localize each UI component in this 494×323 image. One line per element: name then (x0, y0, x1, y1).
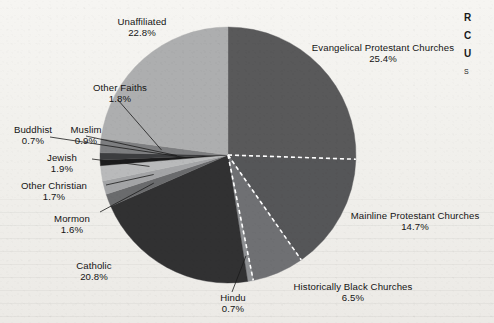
slice-label-muslim: Muslim 0.9% (58, 124, 114, 147)
slice-label-unaffiliated-percent: 22.8% (83, 27, 201, 38)
slice-label-mainline-protestant-churches: Mainline Protestant Churches 14.7% (344, 210, 486, 233)
slice-label-other-faiths: Other Faiths 1.8% (72, 82, 168, 105)
slice-label-historically-black-churches: Historically Black Churches 6.5% (281, 281, 425, 304)
slice-label-unaffiliated-name: Unaffiliated (117, 16, 166, 27)
edge-fragment-line-1: R (464, 12, 494, 23)
edge-fragment-line-4: S (464, 68, 494, 75)
edge-fragment-line-3: U (464, 48, 494, 59)
slice-label-evangelical-protestant-churches-percent: 25.4% (305, 53, 461, 64)
slice-label-evangelical-protestant-churches: Evangelical Protestant Churches 25.4% (305, 42, 461, 65)
slice-label-hindu-percent: 0.7% (206, 303, 260, 314)
slice-label-mormon: Mormon 1.6% (40, 213, 104, 236)
slice-label-other-christian: Other Christian 1.7% (2, 180, 106, 203)
slice-label-evangelical-protestant-churches-name: Evangelical Protestant Churches (312, 42, 454, 53)
slice-label-catholic-percent: 20.8% (62, 271, 126, 282)
slice-label-other-faiths-name: Other Faiths (93, 82, 147, 93)
slice-label-jewish: Jewish 1.9% (32, 152, 92, 175)
edge-fragment-line-2: C (464, 30, 494, 41)
slice-label-unaffiliated: Unaffiliated 22.8% (83, 16, 201, 39)
slice-label-other-christian-percent: 1.7% (2, 191, 106, 202)
slice-label-mainline-protestant-churches-percent: 14.7% (344, 221, 486, 232)
slice-label-muslim-percent: 0.9% (58, 135, 114, 146)
slice-label-mainline-protestant-churches-name: Mainline Protestant Churches (351, 210, 480, 221)
slice-label-muslim-name: Muslim (71, 124, 102, 135)
slice-label-catholic: Catholic 20.8% (62, 260, 126, 283)
slice-label-buddhist-name: Buddhist (14, 124, 52, 135)
slice-label-mormon-percent: 1.6% (40, 224, 104, 235)
slice-label-jewish-name: Jewish (47, 152, 77, 163)
slice-label-mormon-name: Mormon (54, 213, 90, 224)
slice-label-buddhist: Buddhist 0.7% (2, 124, 64, 147)
slice-label-jewish-percent: 1.9% (32, 163, 92, 174)
slice-label-other-faiths-percent: 1.8% (72, 93, 168, 104)
slice-label-historically-black-churches-percent: 6.5% (281, 292, 425, 303)
slice-label-hindu: Hindu 0.7% (206, 292, 260, 315)
slice-label-other-christian-name: Other Christian (21, 180, 87, 191)
slice-label-historically-black-churches-name: Historically Black Churches (294, 281, 413, 292)
slice-label-catholic-name: Catholic (76, 260, 111, 271)
slice-label-hindu-name: Hindu (220, 292, 246, 303)
cutoff-edge-text-fragment: R C U S (464, 12, 494, 90)
slice-label-buddhist-percent: 0.7% (2, 135, 64, 146)
